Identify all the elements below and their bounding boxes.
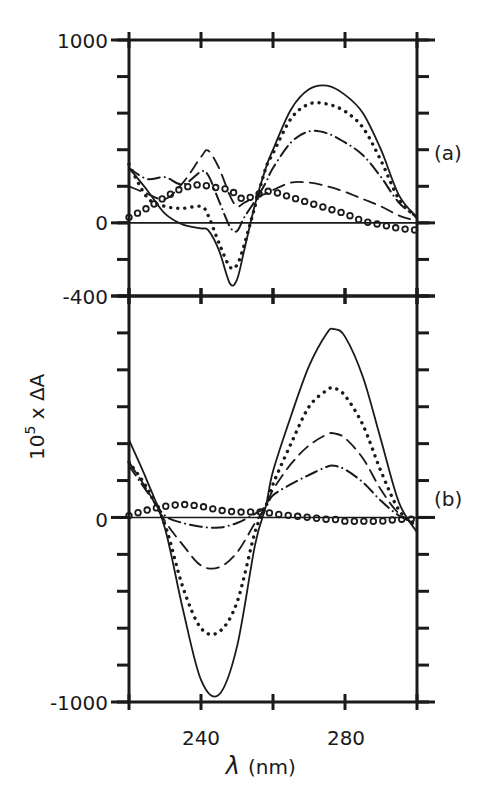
- series-circle-marker: [238, 195, 244, 201]
- panel-a: [111, 32, 435, 304]
- series-circle-marker: [229, 509, 235, 515]
- series-circle-marker: [143, 206, 149, 212]
- series-circle-marker: [194, 182, 200, 188]
- series-circle-marker: [275, 190, 281, 196]
- series-circle-marker: [402, 226, 408, 232]
- series-circle-marker: [338, 210, 344, 216]
- series-circle-marker: [311, 201, 317, 207]
- series-circle-marker: [352, 518, 358, 524]
- series-circle-marker: [135, 510, 141, 516]
- series-circle-marker: [267, 510, 273, 516]
- panel-label-b: (b): [434, 487, 462, 511]
- series-circle-marker: [238, 509, 244, 515]
- series-circle-marker: [302, 199, 308, 205]
- plot-area: [111, 32, 435, 710]
- x-axis-label-unit: (nm): [248, 755, 296, 779]
- y-axis-label-exp: 5: [22, 426, 38, 435]
- series-circle-marker: [144, 507, 150, 513]
- series-circle-marker: [314, 515, 320, 521]
- series-circle-marker: [168, 191, 174, 197]
- series-circle-marker: [389, 517, 395, 523]
- series-dashed-line: [129, 433, 417, 569]
- series-circle-marker: [285, 513, 291, 519]
- series-circle-marker: [201, 504, 207, 510]
- series-circle-marker: [333, 517, 339, 523]
- series-circle-marker: [191, 503, 197, 509]
- series-dotted-line: [129, 103, 417, 269]
- series-circle-marker: [204, 183, 210, 189]
- series-circle-marker: [384, 223, 390, 229]
- series-circle-marker: [247, 195, 253, 201]
- series-circle-marker: [210, 506, 216, 512]
- panel-b: [111, 288, 435, 710]
- y-axis-label: 105 x ΔA: [22, 373, 49, 460]
- series-circle-marker: [276, 512, 282, 518]
- series-circle-marker: [219, 508, 225, 514]
- y-tick-label-a-bottom: -400: [63, 285, 108, 309]
- series-circle-marker: [342, 518, 348, 524]
- series-circle-marker: [135, 210, 141, 216]
- series-circle-marker: [380, 518, 386, 524]
- x-tick-label-280: 280: [327, 726, 365, 750]
- series-circle-marker: [329, 207, 335, 213]
- y-axis-label-base: 10: [25, 435, 49, 460]
- series-circle-marker: [151, 201, 157, 207]
- series-circle-marker: [213, 185, 219, 191]
- series-circle-marker: [412, 227, 418, 233]
- series-circle-marker: [154, 505, 160, 511]
- panel-label-a: (a): [434, 141, 462, 165]
- series-circle-marker: [265, 188, 271, 194]
- series-circle-marker: [361, 518, 367, 524]
- y-tick-label-b-bottom: -1000: [50, 691, 108, 715]
- y-tick-label-a-top: 1000: [57, 29, 108, 53]
- series-circle-marker: [293, 196, 299, 202]
- series-circle-marker: [163, 503, 169, 509]
- y-axis-label-rest: x ΔA: [25, 373, 49, 425]
- series-dashed-line: [129, 150, 417, 221]
- series-circle-marker: [159, 196, 165, 202]
- y-tick-label-b-zero: 0: [95, 508, 108, 532]
- x-tick-label-240: 240: [182, 726, 220, 750]
- series-circle-marker: [231, 190, 237, 196]
- series-circle-marker: [374, 221, 380, 227]
- series-dotted-line: [129, 388, 417, 635]
- series-circle-marker: [248, 509, 254, 515]
- series-circle-marker: [399, 516, 405, 522]
- series-circle-marker: [408, 516, 414, 522]
- x-axis-label-symbol: λ: [224, 752, 240, 780]
- series-dash-dot-line: [129, 131, 417, 232]
- series-circle-marker: [222, 186, 228, 192]
- svg-text:105 x ΔA: 105 x ΔA: [22, 373, 49, 460]
- figure: 1000 0 -400 0 -1000 240 280 λ (nm) 105 x…: [0, 0, 489, 795]
- series-circle-marker: [371, 518, 377, 524]
- series-circle-marker: [182, 502, 188, 508]
- series-circle-marker: [295, 513, 301, 519]
- series-circle-marker: [323, 516, 329, 522]
- series-circle-marker: [347, 213, 353, 219]
- series-solid-line: [129, 85, 417, 285]
- series-circle-marker: [393, 225, 399, 231]
- series-circle-marker: [320, 204, 326, 210]
- series-circle-marker: [284, 193, 290, 199]
- series-circle-marker: [176, 187, 182, 193]
- series-circle-marker: [185, 184, 191, 190]
- y-tick-label-a-zero: 0: [95, 211, 108, 235]
- series-circle-marker: [356, 217, 362, 223]
- series-circle-marker: [172, 502, 178, 508]
